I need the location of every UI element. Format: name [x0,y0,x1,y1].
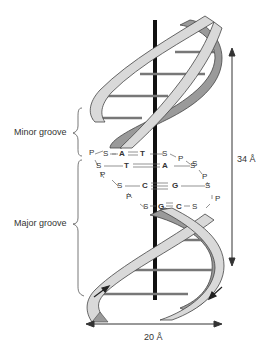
phosphate-label: P [89,148,94,157]
base-C: C [176,202,182,211]
sugar-label: S [205,181,210,190]
phosphate-label: P [215,194,220,203]
sugar-label: S [117,181,122,190]
base-pair-region: P S A T S P S S T A S P P S C G S P P S … [0,0,266,349]
phosphate-label: P [178,154,183,163]
base-A: A [162,161,168,170]
base-A: A [119,149,125,158]
base-G: G [158,202,164,211]
base-G: G [172,181,178,190]
base-T: T [140,149,145,158]
phosphate-label: P [126,192,131,201]
base-C: C [142,181,148,190]
base-T: T [124,161,129,170]
phosphate-label: P [100,170,105,179]
sugar-label: S [103,149,108,158]
phosphate-label: P [202,172,207,181]
sugar-label: S [192,202,197,211]
sugar-label: S [143,202,148,211]
sugar-label: S [96,161,101,170]
sugar-label: S [162,149,167,158]
sugar-label: S [190,161,195,170]
